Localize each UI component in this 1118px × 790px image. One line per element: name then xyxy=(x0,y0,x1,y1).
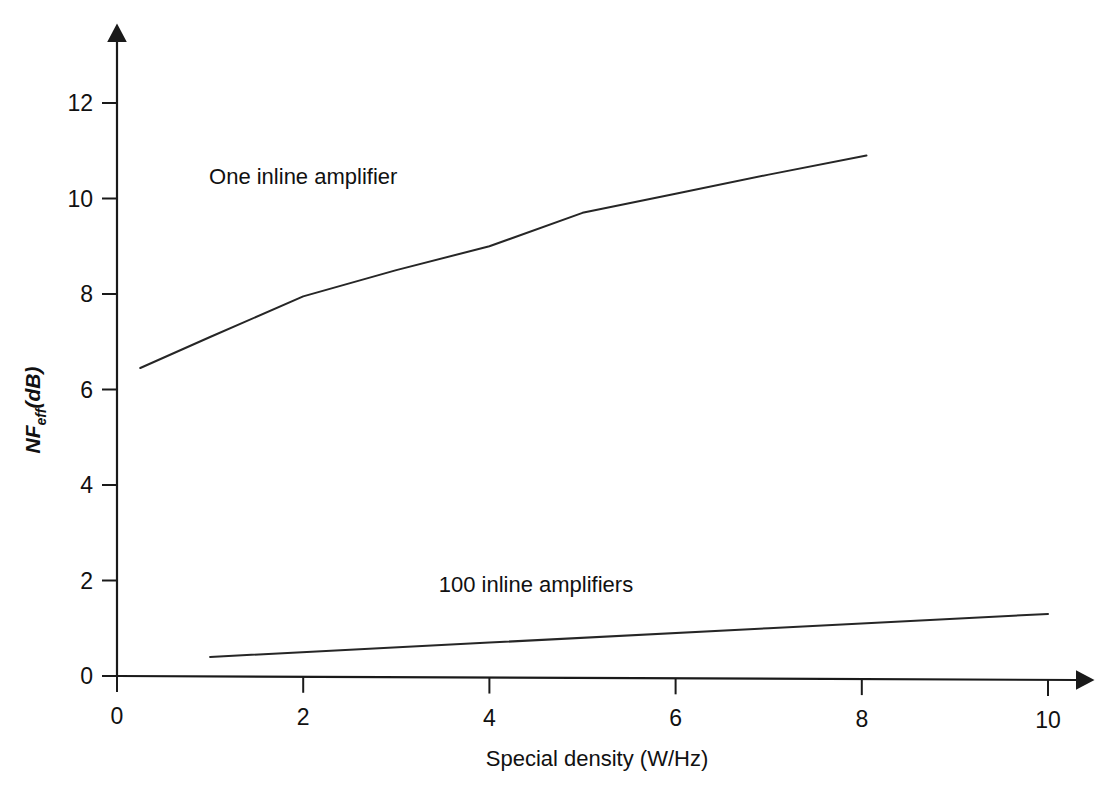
y-tick-label: 12 xyxy=(67,90,93,116)
series-line-2 xyxy=(210,614,1048,657)
x-axis-line xyxy=(117,676,1078,680)
chart-canvas: 024681012 0246810 One inline amplifier10… xyxy=(0,0,1118,790)
x-tick-label: 10 xyxy=(1035,707,1061,733)
y-tick-label: 8 xyxy=(80,281,93,307)
x-axis-ticks: 0246810 xyxy=(111,676,1061,733)
y-tick-label: 10 xyxy=(67,186,93,212)
y-axis-title-main: NF xyxy=(21,424,44,453)
series-annotation-2: 100 inline amplifiers xyxy=(439,572,633,597)
y-axis-title-unit: (dB) xyxy=(21,367,44,409)
x-axis-title: Special density (W/Hz) xyxy=(486,746,709,771)
x-tick-label: 2 xyxy=(297,704,310,730)
annotation-group: One inline amplifier100 inline amplifier… xyxy=(209,164,633,597)
y-axis-ticks: 024681012 xyxy=(67,90,117,689)
y-tick-label: 2 xyxy=(80,568,93,594)
y-axis-title-subscript: eff xyxy=(33,407,49,425)
x-tick-label: 6 xyxy=(669,705,682,731)
x-tick-label: 0 xyxy=(111,703,124,729)
y-tick-label: 0 xyxy=(80,663,93,689)
chart-figure: 024681012 0246810 One inline amplifier10… xyxy=(0,0,1118,790)
y-axis-title: NFeff(dB) xyxy=(21,367,49,454)
y-tick-label: 6 xyxy=(80,377,93,403)
svg-text:NFeff(dB): NFeff(dB) xyxy=(21,367,49,454)
series-annotation-1: One inline amplifier xyxy=(209,164,397,189)
x-tick-label: 4 xyxy=(483,705,496,731)
x-tick-label: 8 xyxy=(855,706,868,732)
y-tick-label: 4 xyxy=(80,472,93,498)
